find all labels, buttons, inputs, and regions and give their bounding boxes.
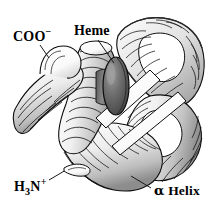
coo-charge: − bbox=[46, 26, 52, 37]
heme-disc bbox=[103, 57, 129, 115]
alpha-helix-label: α Helix bbox=[154, 184, 200, 198]
h3n-nitrogen: N bbox=[30, 179, 40, 194]
alpha-symbol: α bbox=[154, 182, 165, 198]
amino-terminus-label: H3N+ bbox=[14, 180, 47, 194]
h3n-element: H bbox=[14, 179, 25, 194]
heme-label: Heme bbox=[74, 24, 110, 38]
coo-text: COO bbox=[13, 29, 46, 44]
carboxyl-terminus-label: COO− bbox=[13, 30, 51, 44]
h3n-charge: + bbox=[41, 176, 47, 187]
helix-text: Helix bbox=[165, 183, 200, 198]
myoglobin-ribbon-figure: COO− Heme H3N+ α Helix bbox=[0, 0, 214, 212]
